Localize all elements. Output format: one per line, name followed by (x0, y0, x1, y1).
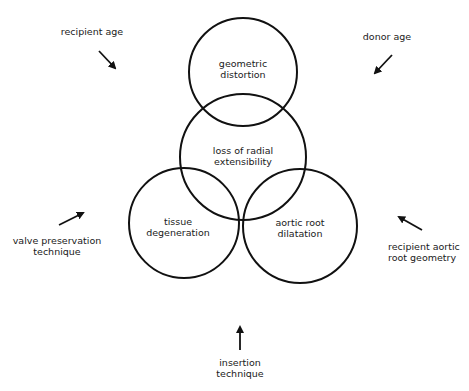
label-loss-of-radial-extensibility: loss of radial extensibility (198, 145, 288, 167)
factor-donor-age: donor age (352, 31, 422, 42)
label-line: valve preservation (12, 235, 102, 246)
label-line: root geometry (388, 252, 469, 263)
label-line: degeneration (138, 227, 218, 238)
factor-valve-preservation-technique: valve preservation technique (12, 235, 102, 257)
factor-insertion-technique: insertion technique (205, 357, 275, 379)
label-line: recipient aortic (388, 241, 469, 252)
label-line: extensibility (198, 156, 288, 167)
arrow-valve-preservation (59, 213, 83, 225)
label-line: technique (12, 246, 102, 257)
label-line: recipient age (52, 26, 132, 37)
label-line: loss of radial (198, 145, 288, 156)
label-line: aortic root (260, 217, 340, 228)
label-line: technique (205, 368, 275, 379)
arrow-recipient-age (99, 51, 115, 68)
label-aortic-root-dilatation: aortic root dilatation (260, 217, 340, 239)
label-line: tissue (138, 216, 218, 227)
arrow-recipient-aortic-root (399, 217, 422, 230)
label-line: dilatation (260, 228, 340, 239)
arrow-donor-age (375, 55, 392, 73)
factor-recipient-aortic-root-geometry: recipient aortic root geometry (388, 241, 469, 263)
label-line: distortion (213, 69, 273, 80)
label-line: donor age (352, 31, 422, 42)
factor-recipient-age: recipient age (52, 26, 132, 37)
label-tissue-degeneration: tissue degeneration (138, 216, 218, 238)
label-line: geometric (213, 58, 273, 69)
label-line: insertion (205, 357, 275, 368)
label-geometric-distortion: geometric distortion (213, 58, 273, 80)
